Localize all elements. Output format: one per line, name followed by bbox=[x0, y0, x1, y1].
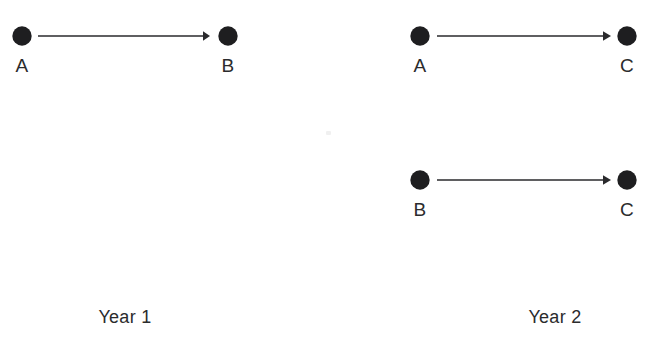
node-dot-c-bottom bbox=[617, 170, 636, 189]
node-dot-c-top bbox=[617, 26, 636, 45]
node-label-c-top: C bbox=[615, 56, 639, 75]
node-label-a: A bbox=[10, 56, 34, 75]
node-dot-a bbox=[12, 26, 31, 45]
graph-year-1 bbox=[0, 0, 330, 300]
node-dot-a bbox=[410, 26, 429, 45]
edge-b-to-c-arrowhead bbox=[603, 175, 611, 185]
node-label-b: B bbox=[408, 200, 432, 219]
panel-caption-year-1: Year 1 bbox=[55, 308, 195, 326]
node-label-a: A bbox=[408, 56, 432, 75]
panel-year-2: A C B C Year 2 bbox=[330, 0, 659, 360]
edge-b-to-c bbox=[437, 175, 611, 185]
node-label-c-bottom: C bbox=[615, 200, 639, 219]
graph-year-2 bbox=[330, 0, 659, 300]
edge-a-to-b-arrowhead bbox=[203, 31, 210, 41]
node-dot-b bbox=[410, 170, 429, 189]
panel-year-1: A B Year 1 bbox=[0, 0, 330, 360]
edge-a-to-c bbox=[437, 31, 611, 41]
node-label-b: B bbox=[216, 56, 240, 75]
panel-caption-year-2: Year 2 bbox=[485, 308, 625, 326]
figure-canvas: A B Year 1 A C B C Year 2 bbox=[0, 0, 659, 360]
edge-a-to-c-arrowhead bbox=[603, 31, 611, 41]
edge-a-to-b bbox=[38, 31, 210, 41]
node-dot-b bbox=[218, 26, 237, 45]
